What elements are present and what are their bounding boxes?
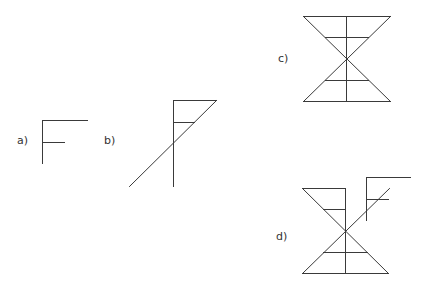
figure-c: c) bbox=[278, 17, 391, 102]
diagram-canvas: a) b) c) d) bbox=[0, 0, 426, 288]
geometric-figures-diagram: a) b) c) d) bbox=[0, 0, 426, 288]
figure-a-label: a) bbox=[17, 134, 28, 147]
figure-b-label: b) bbox=[104, 134, 115, 147]
figure-c-lines bbox=[304, 17, 391, 102]
figure-d-lines bbox=[303, 178, 411, 274]
figure-a-lines bbox=[43, 121, 88, 164]
figure-d: d) bbox=[276, 178, 411, 274]
figure-b-lines bbox=[130, 101, 217, 187]
figure-d-label: d) bbox=[276, 230, 287, 243]
figure-c-label: c) bbox=[278, 52, 288, 65]
figure-a: a) bbox=[17, 121, 88, 164]
figure-b: b) bbox=[104, 101, 217, 187]
